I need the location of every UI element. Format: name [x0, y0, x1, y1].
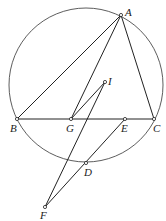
label-c: C [153, 122, 161, 134]
label-f: F [39, 209, 47, 221]
point-d [84, 161, 87, 164]
label-g: G [66, 122, 74, 134]
segment-gi [71, 82, 105, 119]
segment-if [45, 82, 105, 207]
segment-ab [17, 15, 121, 119]
geometry-diagram: A I B G E C D F [0, 0, 166, 221]
point-labels: A I B G E C D F [10, 6, 161, 221]
point-g [69, 117, 72, 120]
label-i: I [107, 75, 113, 87]
point-markers [15, 13, 155, 208]
point-a [119, 13, 122, 16]
circumcircle [9, 8, 163, 162]
point-b [15, 117, 18, 120]
segments [17, 15, 154, 207]
segment-ac [121, 15, 154, 119]
point-c [152, 117, 155, 120]
point-i [103, 80, 106, 83]
label-b: B [10, 122, 17, 134]
segment-ag [71, 15, 121, 119]
label-e: E [120, 122, 128, 134]
point-e [123, 117, 126, 120]
label-a: A [124, 6, 132, 18]
label-d: D [83, 166, 92, 178]
